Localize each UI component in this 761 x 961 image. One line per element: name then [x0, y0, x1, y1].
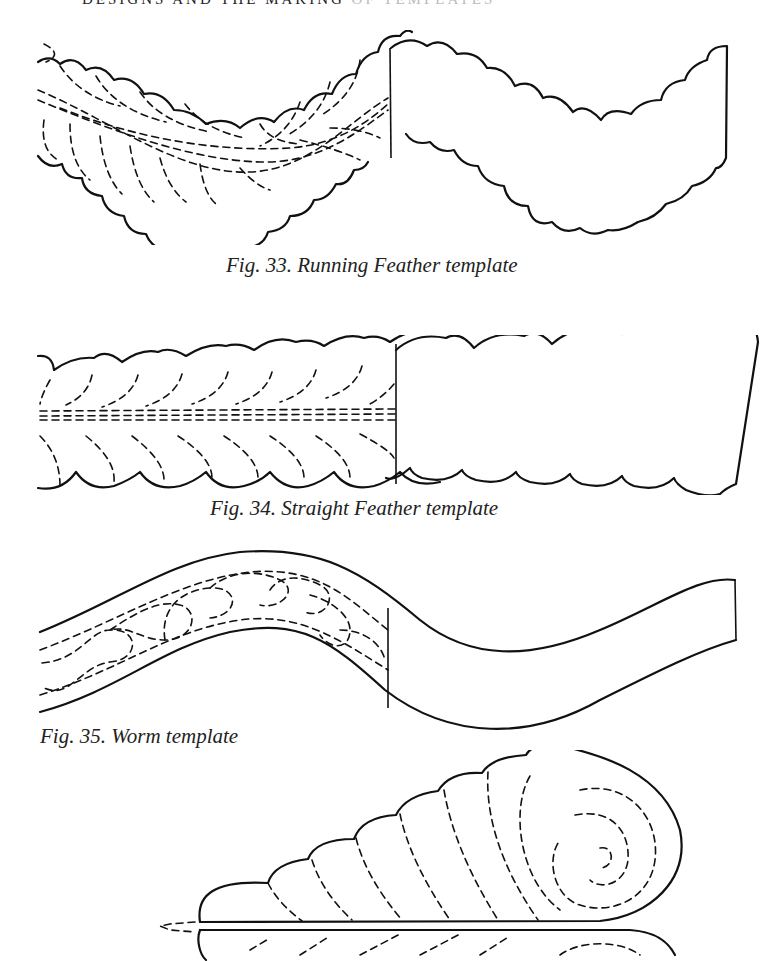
caption-fig-33: Fig. 33. Running Feather template — [226, 253, 518, 278]
figure-straight-feather — [0, 335, 761, 495]
running-head: DESIGNS AND THE MAKING OF TEMPLATES — [82, 0, 495, 7]
running-head-text: DESIGNS AND THE MAKING — [82, 0, 345, 7]
worm-drawing — [0, 540, 761, 740]
figure-worm — [0, 540, 761, 740]
figure-running-feather — [0, 30, 761, 245]
running-head-faded-text: OF TEMPLATES — [352, 0, 496, 7]
running-feather-drawing — [0, 30, 761, 245]
caption-fig-35: Fig. 35. Worm template — [40, 724, 238, 749]
feather-spiral-drawing — [0, 750, 761, 961]
caption-fig-34: Fig. 34. Straight Feather template — [210, 496, 498, 521]
figure-feather-spiral — [0, 750, 761, 961]
straight-feather-drawing — [0, 335, 761, 495]
